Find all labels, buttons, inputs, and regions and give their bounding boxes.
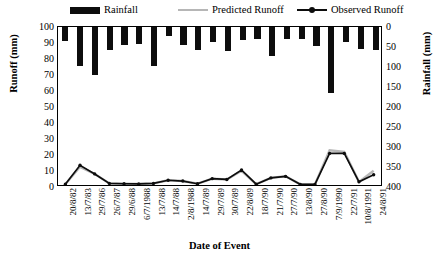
left-axis-tick-label: 40 bbox=[44, 117, 54, 128]
right-axis-tick-label: 0 bbox=[386, 21, 391, 32]
x-axis-tick-label: 22/8/89 bbox=[245, 188, 255, 216]
left-axis-tick-label: 30 bbox=[44, 133, 54, 144]
legend-item-rainfall: Rainfall bbox=[70, 2, 138, 18]
x-axis-tick-label: 13/8/90 bbox=[304, 188, 314, 216]
left-axis-tick-label: 80 bbox=[44, 53, 54, 64]
rainfall-runoff-chart: Rainfall Predicted Runoff Observed Runof… bbox=[0, 0, 437, 259]
x-axis-tick-label: 10/8/1991 bbox=[363, 188, 373, 225]
left-axis-title: Runoff (mm) bbox=[8, 4, 19, 124]
x-axis-tick-label: 13/7/83 bbox=[83, 188, 93, 216]
runoff-lines bbox=[58, 27, 381, 185]
right-axis-tick-label: 400 bbox=[386, 181, 401, 192]
left-axis-tick-label: 50 bbox=[44, 101, 54, 112]
observed-runoff-marker bbox=[137, 182, 140, 185]
observed-runoff-marker bbox=[93, 172, 96, 175]
observed-runoff-marker bbox=[357, 180, 360, 183]
x-axis-tick-label: 27/7/90 bbox=[289, 188, 299, 216]
right-axis-tick-label: 300 bbox=[386, 141, 401, 152]
left-axis-ticks: 0102030405060708090100 bbox=[20, 26, 54, 186]
observed-runoff-marker bbox=[122, 182, 125, 185]
x-axis-title: Date of Event bbox=[57, 240, 382, 251]
observed-runoff-line bbox=[65, 153, 373, 184]
observed-runoff-marker bbox=[152, 182, 155, 185]
right-axis-tick-label: 50 bbox=[386, 41, 396, 52]
right-axis-title: Rainfall (mm) bbox=[421, 4, 432, 124]
x-axis-tick-label: 13/7/88 bbox=[157, 188, 167, 216]
observed-runoff-marker bbox=[181, 179, 184, 182]
legend-label-predicted-runoff: Predicted Runoff bbox=[212, 2, 284, 18]
legend-label-observed-runoff: Observed Runoff bbox=[331, 2, 403, 18]
x-axis-tick-label: 30/7/89 bbox=[230, 188, 240, 216]
observed-runoff-marker bbox=[166, 179, 169, 182]
x-axis-tick-label: 2/8/1988 bbox=[186, 188, 196, 220]
x-axis-tick-label: 22/7/91 bbox=[349, 188, 359, 216]
observed-runoff-marker bbox=[328, 152, 331, 155]
right-axis-tick-label: 200 bbox=[386, 101, 401, 112]
x-axis-tick-label: 27/8/90 bbox=[319, 188, 329, 216]
right-axis-ticks: 050100150200250300350400 bbox=[386, 26, 420, 186]
left-axis-tick-label: 100 bbox=[39, 21, 54, 32]
x-axis-tick-label: 18/7/90 bbox=[260, 188, 270, 216]
right-axis-tick-label: 350 bbox=[386, 161, 401, 172]
x-axis-tick-label: 21/7/90 bbox=[275, 188, 285, 216]
x-axis-tick-label: 29/6/88 bbox=[127, 188, 137, 216]
observed-runoff-marker bbox=[210, 177, 213, 180]
right-axis-tick-label: 150 bbox=[386, 81, 401, 92]
legend-item-predicted-runoff: Predicted Runoff bbox=[178, 2, 284, 18]
x-axis-tick-label: 20/8/82 bbox=[68, 188, 78, 216]
observed-runoff-marker bbox=[240, 168, 243, 171]
observed-runoff-marker bbox=[225, 178, 228, 181]
observed-runoff-marker bbox=[343, 152, 346, 155]
right-axis-tick-label: 250 bbox=[386, 121, 401, 132]
observed-runoff-marker bbox=[284, 175, 287, 178]
observed-runoff-marker bbox=[108, 182, 111, 185]
legend-item-observed-runoff: Observed Runoff bbox=[297, 2, 403, 18]
observed-runoff-marker bbox=[78, 164, 81, 167]
x-axis-tick-label: 29/7/86 bbox=[97, 188, 107, 216]
x-axis-tick-label: 26/7/87 bbox=[112, 188, 122, 216]
x-axis-tick-labels: 20/8/8213/7/8329/7/8626/7/8729/6/886/7/1… bbox=[57, 188, 382, 236]
x-axis-tick-label: 29/7/89 bbox=[216, 188, 226, 216]
x-axis-tick-label: 7/9/1990 bbox=[334, 188, 344, 220]
observed-runoff-marker bbox=[269, 176, 272, 179]
x-axis-tick-label: 14/7/89 bbox=[201, 188, 211, 216]
rainfall-swatch-icon bbox=[70, 7, 100, 14]
observed-runoff-swatch-icon bbox=[297, 5, 327, 15]
right-axis-tick-label: 100 bbox=[386, 61, 401, 72]
x-axis-tick-label: 24/8/91 bbox=[378, 188, 388, 216]
plot-area bbox=[57, 26, 382, 186]
observed-runoff-marker bbox=[372, 173, 375, 176]
left-axis-tick-label: 60 bbox=[44, 85, 54, 96]
left-axis-tick-label: 90 bbox=[44, 37, 54, 48]
left-axis-tick-label: 0 bbox=[49, 181, 54, 192]
left-axis-tick-label: 10 bbox=[44, 165, 54, 176]
left-axis-tick-label: 20 bbox=[44, 149, 54, 160]
left-axis-tick-label: 70 bbox=[44, 69, 54, 80]
chart-legend: Rainfall Predicted Runoff Observed Runof… bbox=[0, 2, 437, 18]
legend-label-rainfall: Rainfall bbox=[104, 2, 138, 18]
x-axis-tick-label: 14/7/88 bbox=[171, 188, 181, 216]
predicted-runoff-swatch-icon bbox=[178, 5, 208, 15]
x-axis-tick-label: 6/7/1988 bbox=[142, 188, 152, 220]
